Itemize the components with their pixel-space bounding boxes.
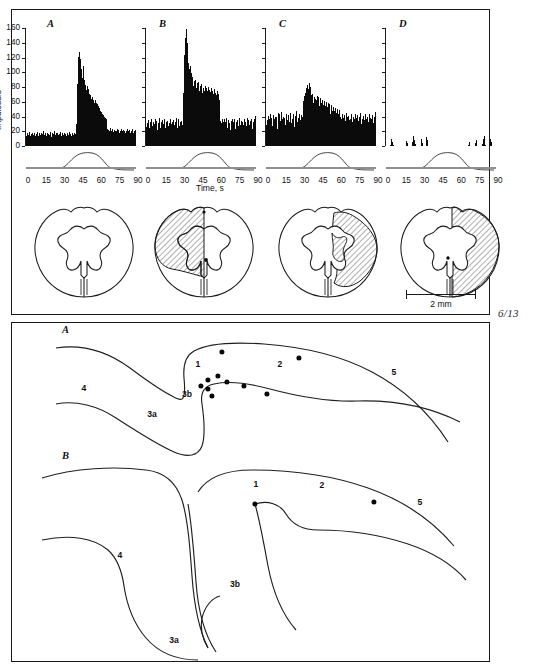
stimulus-trace: [26, 150, 138, 174]
x-tick-label: 15: [402, 176, 411, 185]
x-axis: 0153045607590: [266, 174, 378, 190]
figure-page: A020406080100120140160Impulses/s01530456…: [0, 0, 537, 670]
y-tick: [262, 28, 266, 29]
y-tick: [22, 58, 26, 59]
histogram-panel-c: C0153045607590: [265, 18, 383, 178]
x-tick-label: 45: [438, 176, 447, 185]
y-tick: [382, 102, 386, 103]
x-tick-label: 90: [493, 176, 502, 185]
time-axis-title: Time, s: [196, 183, 224, 193]
stimulus-trace: [386, 150, 498, 174]
y-tick: [142, 117, 146, 118]
x-tick-label: 30: [300, 176, 309, 185]
y-tick-label: 120: [6, 54, 20, 62]
y-tick: [262, 131, 266, 132]
histogram-bars: [386, 28, 496, 146]
cortical-area-label-1: 1: [196, 359, 201, 369]
map-a-letter: A: [62, 324, 69, 335]
histogram-bar: [422, 143, 423, 146]
y-tick: [22, 28, 26, 29]
y-tick: [262, 58, 266, 59]
x-tick-label: 60: [457, 176, 466, 185]
cord-section-hemisection: [390, 203, 510, 303]
cortical-area-label-3b: 3b: [230, 579, 240, 589]
x-tick-label: 75: [475, 176, 484, 185]
y-tick: [22, 117, 26, 118]
x-tick-label: 45: [318, 176, 327, 185]
y-tick: [142, 146, 146, 147]
cortical-map-b: B 43a3b125: [12, 452, 478, 660]
y-tick-label: 80: [11, 83, 20, 91]
y-tick: [382, 87, 386, 88]
histogram-panel-b: B0153045607590: [145, 18, 263, 178]
y-tick: [262, 117, 266, 118]
scale-bar-label: 2 mm: [402, 299, 480, 309]
y-tick: [142, 102, 146, 103]
y-tick: [262, 72, 266, 73]
y-tick-label: 0: [15, 142, 20, 150]
y-tick: [382, 146, 386, 147]
x-tick-label: 30: [420, 176, 429, 185]
x-tick-label: 90: [253, 176, 262, 185]
cortical-area-label-3b: 3b: [182, 389, 192, 399]
x-tick-label: 45: [78, 176, 87, 185]
cortical-area-label-5: 5: [418, 497, 423, 507]
x-axis: 0153045607590: [26, 174, 138, 190]
x-tick-label: 90: [373, 176, 382, 185]
histogram-bar: [427, 144, 428, 146]
x-tick-label: 0: [26, 176, 31, 185]
histogram-bar: [491, 145, 492, 146]
x-axis: 0153045607590: [386, 174, 498, 190]
stimulus-baseline: [26, 167, 136, 170]
x-tick-label: 15: [42, 176, 51, 185]
y-tick: [142, 43, 146, 44]
x-tick-label: 75: [355, 176, 364, 185]
map-b-outlines: [12, 452, 478, 660]
cortical-area-label-5: 5: [392, 367, 397, 377]
y-tick: [262, 146, 266, 147]
y-tick: [142, 72, 146, 73]
histogram-bar: [407, 143, 408, 146]
stimulus-trace: [146, 150, 258, 174]
stimulus-trace: [266, 150, 378, 174]
y-tick: [262, 102, 266, 103]
y-tick: [22, 131, 26, 132]
x-tick-label: 90: [133, 176, 142, 185]
cortical-area-label-2: 2: [278, 359, 283, 369]
y-tick: [262, 87, 266, 88]
x-tick-label: 15: [162, 176, 171, 185]
histogram-bars: [266, 28, 376, 146]
y-tick: [382, 58, 386, 59]
y-axis-title: Impulses/s: [0, 90, 3, 130]
x-tick-label: 0: [386, 176, 391, 185]
x-tick-label: 30: [60, 176, 69, 185]
cord-section-dorsal-quadrant-lesion: [144, 203, 264, 303]
cortical-area-label-2: 2: [320, 480, 325, 490]
x-tick-label: 0: [266, 176, 271, 185]
y-tick: [382, 131, 386, 132]
cord-section-lateral-lesion: [268, 203, 388, 303]
plot-area: [386, 28, 496, 146]
stimulus-ramp-curve: [386, 150, 498, 174]
y-tick: [382, 43, 386, 44]
y-tick: [382, 72, 386, 73]
plot-area: [26, 28, 136, 146]
x-tick-label: 75: [115, 176, 124, 185]
y-tick: [22, 87, 26, 88]
cortical-area-label-1: 1: [254, 479, 259, 489]
y-tick-label: 160: [6, 24, 20, 32]
x-tick-label: 0: [146, 176, 151, 185]
histogram-bar: [393, 145, 394, 146]
histogram-bars: [146, 28, 256, 146]
y-tick: [142, 28, 146, 29]
x-tick-label: 30: [180, 176, 189, 185]
stimulus-ramp-curve: [146, 150, 258, 174]
folio-number: 6/13: [498, 307, 519, 319]
y-tick-label: 140: [6, 39, 20, 47]
y-tick: [22, 102, 26, 103]
stimulus-baseline: [146, 167, 256, 170]
y-tick: [22, 72, 26, 73]
cortical-area-label-3a: 3a: [169, 635, 179, 645]
stimulus-baseline: [266, 167, 376, 170]
y-tick-label: 60: [11, 98, 20, 106]
